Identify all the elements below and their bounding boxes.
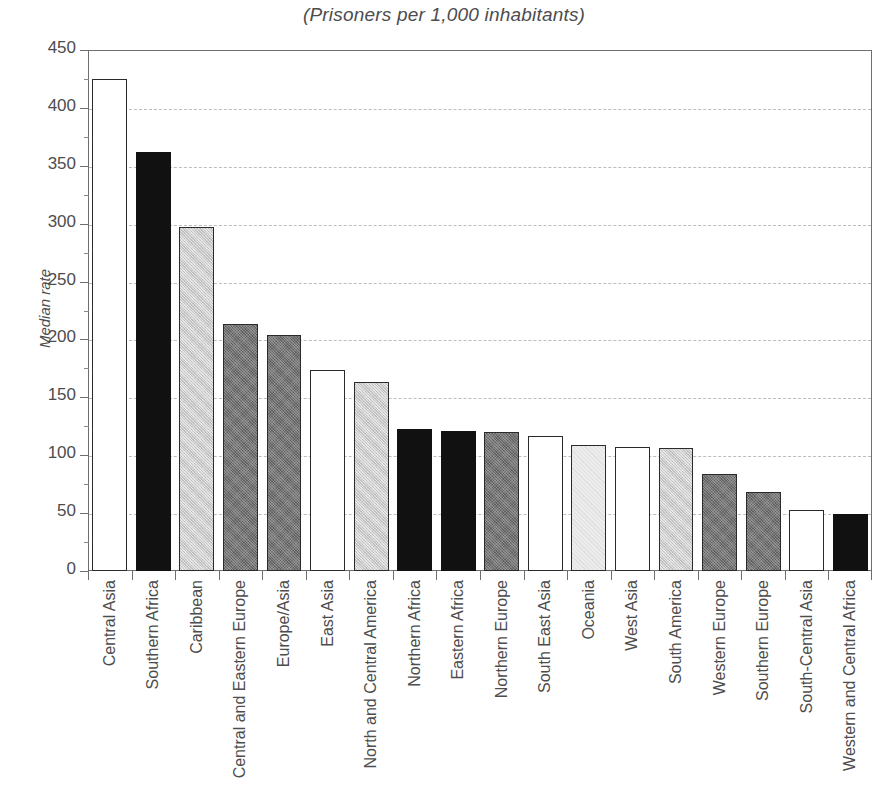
x-tick-label: South-Central Asia xyxy=(798,580,816,713)
x-tick-label: Eastern Africa xyxy=(449,580,467,680)
x-label-slot: Eastern Africa xyxy=(436,580,480,809)
x-tick xyxy=(349,571,350,580)
bar xyxy=(223,324,258,571)
x-label-slot: Western and Central Africa xyxy=(828,580,872,809)
x-tick-label: Central and Eastern Europe xyxy=(231,580,249,778)
x-label-slot: Northern Africa xyxy=(393,580,437,809)
y-tick-label: 400 xyxy=(16,96,76,116)
bar xyxy=(136,152,171,571)
x-label-slot: West Asia xyxy=(611,580,655,809)
bars-group xyxy=(88,50,872,571)
x-tick-label: Northern Europe xyxy=(493,580,511,698)
x-tick-label: East Asia xyxy=(319,580,337,647)
chart-title: (Prisoners per 1,000 inhabitants) xyxy=(0,4,888,26)
x-tick-label: South East Asia xyxy=(536,580,554,693)
x-tick-label: Western and Central Africa xyxy=(841,580,859,771)
bar xyxy=(310,370,345,571)
x-tick xyxy=(741,571,742,580)
x-tick-label: Oceania xyxy=(580,580,598,640)
y-tick-label: 150 xyxy=(16,385,76,405)
x-tick-label: West Asia xyxy=(623,580,641,651)
x-tick-label: Southern Europe xyxy=(754,580,772,701)
x-tick-label: South America xyxy=(667,580,685,684)
x-label-slot: Western Europe xyxy=(698,580,742,809)
x-label-slot: Caribbean xyxy=(175,580,219,809)
bar xyxy=(397,429,432,571)
y-tick-label: 50 xyxy=(16,501,76,521)
x-tick xyxy=(524,571,525,580)
x-label-slot: South America xyxy=(654,580,698,809)
x-tick xyxy=(611,571,612,580)
bar-chart: (Prisoners per 1,000 inhabitants) Median… xyxy=(0,0,888,809)
x-tick-label: Central Asia xyxy=(101,580,119,666)
x-label-slot: North and Central America xyxy=(349,580,393,809)
bar xyxy=(833,514,868,571)
x-tick xyxy=(871,571,872,580)
x-tick xyxy=(306,571,307,580)
x-tick xyxy=(436,571,437,580)
x-tick-label: Caribbean xyxy=(188,580,206,654)
bar xyxy=(615,447,650,571)
bar xyxy=(441,431,476,571)
x-tick-label: Southern Africa xyxy=(144,580,162,689)
bar xyxy=(659,448,694,571)
x-label-slot: Southern Africa xyxy=(132,580,176,809)
x-tick xyxy=(698,571,699,580)
y-axis-title: Median rate xyxy=(36,239,53,379)
x-tick xyxy=(654,571,655,580)
x-tick xyxy=(88,571,89,580)
x-axis-labels: Central AsiaSouthern AfricaCaribbeanCent… xyxy=(88,580,872,809)
x-tick xyxy=(132,571,133,580)
x-tick xyxy=(262,571,263,580)
bar xyxy=(702,474,737,571)
x-tick-label: North and Central America xyxy=(362,580,380,769)
bar xyxy=(571,445,606,571)
y-tick-label: 450 xyxy=(16,38,76,58)
x-tick xyxy=(828,571,829,580)
bar xyxy=(179,227,214,571)
x-tick xyxy=(219,571,220,580)
x-label-slot: Northern Europe xyxy=(480,580,524,809)
x-label-slot: Europe/Asia xyxy=(262,580,306,809)
y-tick-label: 250 xyxy=(16,270,76,290)
bar xyxy=(528,436,563,571)
x-tick xyxy=(175,571,176,580)
x-tick-label: Northern Africa xyxy=(406,580,424,687)
y-tick-label: 200 xyxy=(16,327,76,347)
bar xyxy=(789,510,824,571)
x-tick xyxy=(567,571,568,580)
x-label-slot: South East Asia xyxy=(524,580,568,809)
x-tick xyxy=(480,571,481,580)
x-label-slot: South-Central Asia xyxy=(785,580,829,809)
y-tick-label: 100 xyxy=(16,443,76,463)
y-tick-label: 0 xyxy=(16,559,76,579)
x-tick xyxy=(785,571,786,580)
y-tick-label: 300 xyxy=(16,212,76,232)
y-tick-label: 350 xyxy=(16,154,76,174)
x-axis-ticks xyxy=(88,571,872,580)
bar xyxy=(267,335,302,571)
x-tick xyxy=(393,571,394,580)
bar xyxy=(484,432,519,571)
x-label-slot: Southern Europe xyxy=(741,580,785,809)
x-tick-label: Western Europe xyxy=(711,580,729,695)
x-label-slot: Central and Eastern Europe xyxy=(219,580,263,809)
x-label-slot: Oceania xyxy=(567,580,611,809)
bar xyxy=(92,79,127,571)
bar xyxy=(354,382,389,571)
x-label-slot: Central Asia xyxy=(88,580,132,809)
x-label-slot: East Asia xyxy=(306,580,350,809)
bar xyxy=(746,492,781,571)
x-tick-label: Europe/Asia xyxy=(275,580,293,667)
